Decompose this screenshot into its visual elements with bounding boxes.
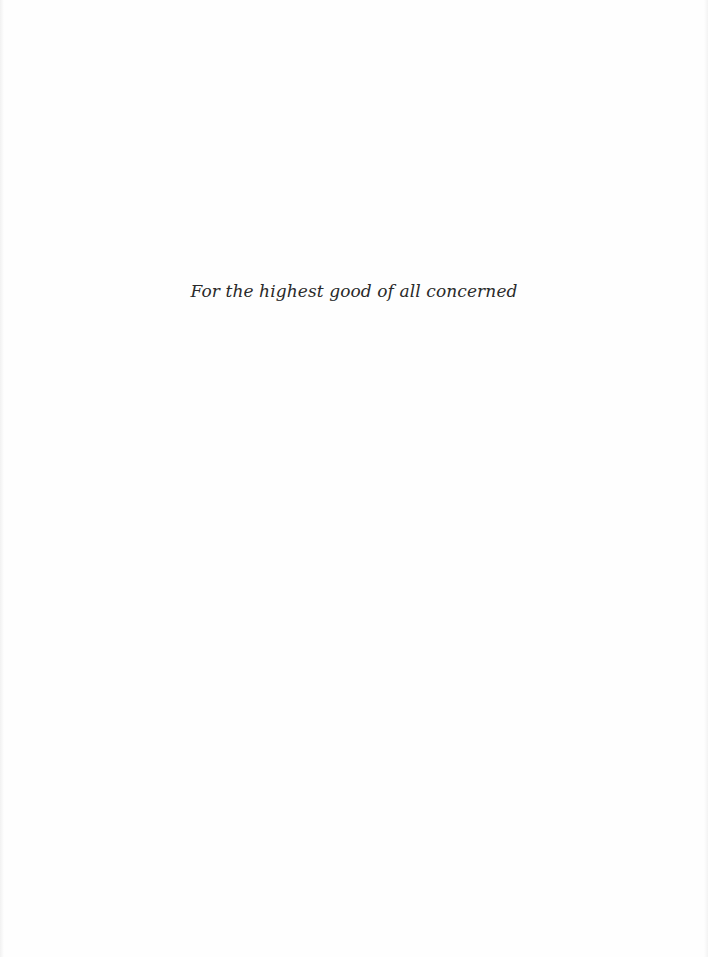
page-edge-right (704, 0, 708, 957)
dedication-text: For the highest good of all concerned (0, 279, 708, 303)
book-page: For the highest good of all concerned (0, 0, 708, 957)
page-edge-left (0, 0, 4, 957)
